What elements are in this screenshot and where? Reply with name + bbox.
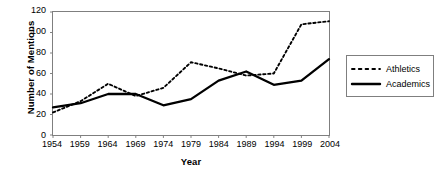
y-axis-tick-labels: 020406080100120 — [18, 0, 46, 182]
chart-legend: AthleticsAcademics — [346, 55, 434, 97]
legend-item-athletics[interactable]: Athletics — [351, 61, 429, 76]
plot-area — [52, 11, 330, 136]
series-line-academics — [53, 59, 329, 107]
legend-item-academics[interactable]: Academics — [351, 76, 429, 91]
y-axis-tick-label: 40 — [20, 89, 46, 98]
y-axis-tick-label: 80 — [20, 48, 46, 57]
legend-swatch-solid-icon — [351, 79, 381, 89]
x-axis-tick-label: 2004 — [310, 139, 350, 149]
y-axis-tick-label: 60 — [20, 69, 46, 78]
y-axis-tick-label: 100 — [20, 27, 46, 36]
legend-label: Academics — [381, 79, 430, 89]
x-axis-title: Year — [52, 156, 330, 167]
plot-svg — [53, 12, 329, 135]
legend-label: Athletics — [381, 64, 420, 74]
x-axis-tick-labels: 1954195919641969197419791984198919941999… — [52, 139, 330, 153]
legend-swatch-dotted-icon — [351, 64, 381, 74]
line-chart-figure: Number of Mentions 020406080100120 19541… — [0, 0, 440, 182]
y-axis-tick-label: 20 — [20, 110, 46, 119]
y-axis-tick-label: 120 — [20, 6, 46, 15]
